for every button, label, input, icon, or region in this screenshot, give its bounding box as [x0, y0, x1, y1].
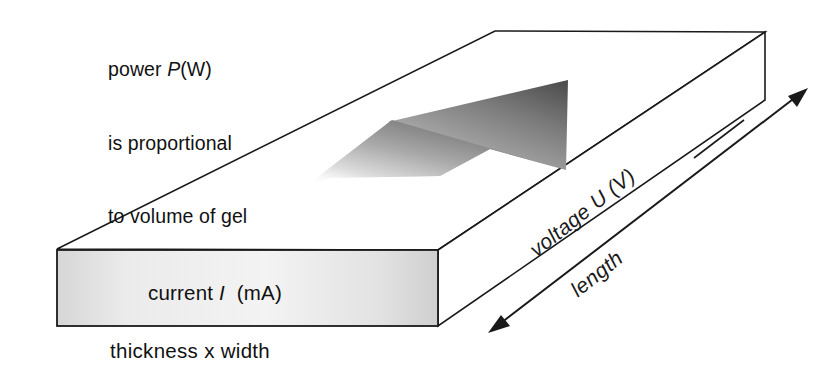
power-note-line3: to volume of gel: [108, 204, 247, 229]
diagram-canvas: power P(W) is proportional to volume of …: [0, 0, 828, 377]
power-note-line1-post: (W): [180, 58, 212, 80]
thickness-label: thickness x width: [110, 339, 270, 363]
power-note-line1-pre: power: [108, 58, 167, 80]
current-label-post: (mA): [225, 281, 282, 304]
power-note-line1: power P(W): [108, 57, 247, 82]
current-label: current I (mA): [148, 281, 282, 305]
power-note-line2: is proportional: [108, 131, 247, 156]
power-note: power P(W) is proportional to volume of …: [108, 8, 247, 278]
current-label-pre: current: [148, 281, 219, 304]
power-symbol: P: [167, 58, 180, 80]
